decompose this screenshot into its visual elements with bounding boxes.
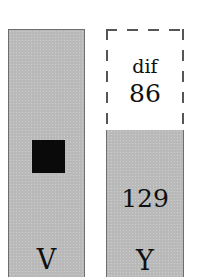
bar-v-label: V (9, 246, 84, 273)
bar-y: 129 Y (106, 129, 184, 277)
dashed-border-left (106, 29, 108, 130)
black-square-marker (32, 140, 65, 173)
difference-value: 86 (106, 81, 184, 106)
bar-y-label: Y (107, 247, 183, 274)
dashed-border-top (106, 29, 184, 31)
bar-y-value: 129 (107, 186, 183, 211)
difference-box: dif 86 (106, 29, 184, 130)
difference-label: dif (106, 57, 184, 76)
dashed-border-right (182, 29, 184, 130)
